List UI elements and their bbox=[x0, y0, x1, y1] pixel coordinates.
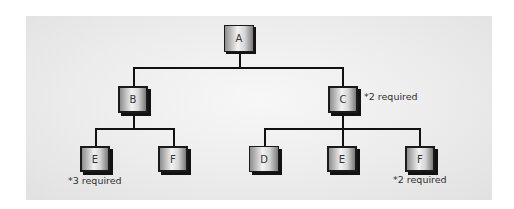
connector-to-f-right bbox=[419, 128, 421, 146]
node-e-mid-label: E bbox=[339, 154, 345, 165]
connector-to-c bbox=[342, 67, 344, 86]
node-f-right: F bbox=[405, 146, 435, 172]
node-b: B bbox=[118, 86, 148, 113]
node-d: D bbox=[249, 146, 279, 172]
connector-to-f-left bbox=[173, 128, 175, 146]
node-c: C bbox=[328, 86, 358, 113]
node-e-left: E bbox=[80, 146, 110, 172]
connector-to-b bbox=[133, 67, 135, 86]
node-e-left-label: E bbox=[92, 154, 98, 165]
node-e-mid: E bbox=[327, 146, 357, 172]
connector-level1-bar bbox=[133, 67, 343, 69]
connector-b-stem bbox=[133, 113, 135, 129]
connector-c-stem bbox=[342, 113, 344, 129]
node-c-note: *2 required bbox=[364, 91, 418, 102]
connector-to-d bbox=[264, 128, 266, 146]
node-f-right-note: *2 required bbox=[393, 174, 447, 185]
node-a: A bbox=[224, 25, 254, 52]
node-c-label: C bbox=[340, 94, 347, 105]
node-f-left: F bbox=[158, 146, 188, 172]
diagram-panel bbox=[26, 16, 492, 200]
node-b-label: B bbox=[130, 94, 137, 105]
node-e-left-note: *3 required bbox=[68, 175, 122, 186]
connector-to-e-left bbox=[95, 128, 97, 146]
node-f-right-label: F bbox=[417, 154, 423, 165]
node-d-label: D bbox=[260, 154, 268, 165]
connector-b-bar bbox=[95, 128, 174, 130]
diagram-canvas: A B C *2 required E *3 required F D E F … bbox=[0, 0, 514, 209]
node-f-left-label: F bbox=[170, 154, 176, 165]
node-a-label: A bbox=[236, 33, 243, 44]
connector-to-e-mid bbox=[342, 128, 344, 146]
